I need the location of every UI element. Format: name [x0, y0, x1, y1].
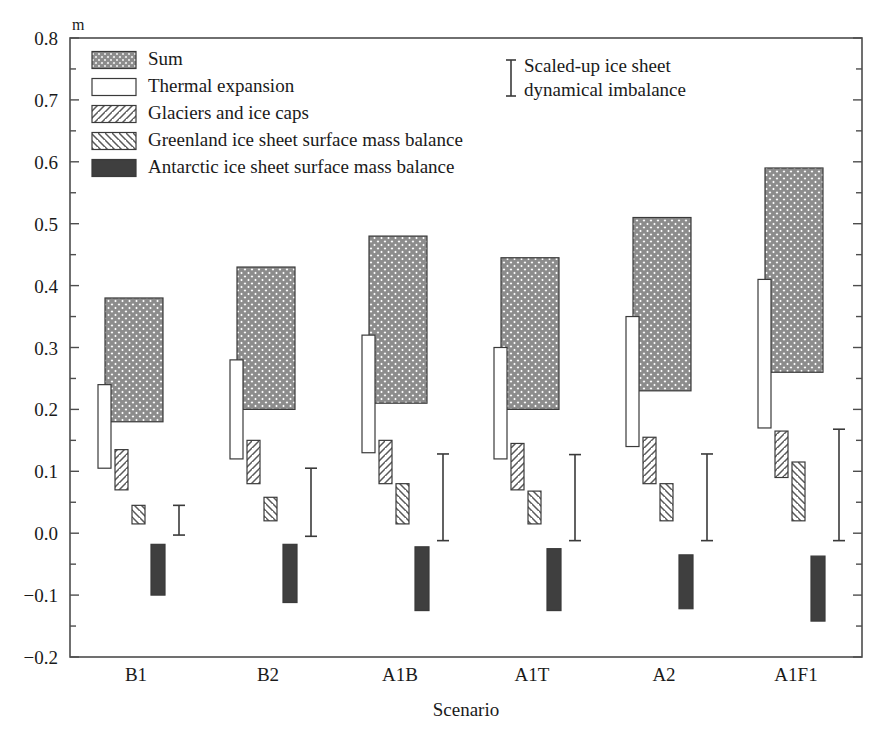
bar-A1F1-diag-back	[792, 462, 805, 521]
bar-B1-empty	[98, 385, 111, 469]
error-bars-group	[173, 429, 845, 540]
bar-A1T-empty	[494, 348, 507, 459]
y-tick-label: 0.7	[34, 90, 58, 111]
legend-label: Sum	[148, 48, 183, 69]
bar-B1-crosshatch	[105, 298, 163, 422]
bar-A1T-diag-back	[528, 491, 541, 524]
y-tick-label: 0.1	[34, 461, 58, 482]
bar-A2-solid	[679, 555, 693, 609]
y-tick-label: −0.2	[24, 647, 58, 668]
y-tick-label: 0.3	[34, 338, 58, 359]
legend-swatch-solid	[92, 160, 136, 177]
bar-B1-diag-forward	[115, 450, 128, 490]
legend-label: Thermal expansion	[148, 75, 295, 96]
y-tick-label: 0.4	[34, 276, 58, 297]
x-tick-label-A1B: A1B	[382, 664, 418, 685]
x-tick-label-A1T: A1T	[515, 664, 550, 685]
bar-A2-diag-back	[660, 484, 673, 521]
error-bar-B1	[173, 505, 185, 535]
annotation-scaled-up-imbalance: Scaled-up ice sheetdynamical imbalance	[506, 55, 686, 100]
y-tick-label: −0.1	[24, 585, 58, 606]
x-tick-label-B2: B2	[257, 664, 279, 685]
annotation-line-2: dynamical imbalance	[524, 79, 686, 100]
error-bar-B2	[305, 468, 317, 536]
bar-A1B-diag-forward	[379, 440, 392, 483]
legend-swatch-diag-forward	[92, 106, 136, 123]
x-tick-label-B1: B1	[125, 664, 147, 685]
y-tick-label: 0.0	[34, 523, 58, 544]
bar-B1-diag-back	[132, 505, 145, 524]
legend-label: Greenland ice sheet surface mass balance	[148, 129, 463, 150]
bar-A2-crosshatch	[633, 218, 691, 391]
x-axis-title: Scenario	[433, 699, 499, 720]
bar-A1T-solid	[547, 549, 561, 611]
annotation-line-1: Scaled-up ice sheet	[524, 55, 671, 76]
bar-A1F1-crosshatch	[765, 168, 823, 372]
chart-canvas: m 0.80.70.60.50.40.30.20.10.0−0.1−0.2 B1…	[0, 0, 881, 733]
bar-A1F1-solid	[811, 556, 825, 621]
bar-A1F1-diag-forward	[775, 431, 788, 477]
error-bar-A2	[701, 454, 713, 541]
x-tick-label-A1F1: A1F1	[774, 664, 817, 685]
error-bar-A1B	[437, 454, 449, 541]
y-tick-label: 0.5	[34, 214, 58, 235]
bar-B2-solid	[283, 544, 297, 602]
bar-B1-solid	[151, 544, 165, 595]
legend-swatch-empty	[92, 79, 136, 96]
legend-swatch-crosshatch	[92, 52, 136, 69]
bar-A1B-diag-back	[396, 484, 409, 524]
error-bar-A1F1	[833, 429, 845, 540]
x-tick-label-A2: A2	[652, 664, 675, 685]
bar-A1T-crosshatch	[501, 258, 559, 410]
bars-group	[98, 168, 825, 621]
bar-B2-diag-back	[264, 497, 277, 521]
bar-A2-empty	[626, 317, 639, 447]
legend: SumThermal expansionGlaciers and ice cap…	[92, 48, 463, 177]
error-bar-A1T	[569, 455, 581, 541]
legend-label: Antarctic ice sheet surface mass balance	[148, 156, 454, 177]
y-tick-label: 0.6	[34, 152, 58, 173]
bar-B2-empty	[230, 360, 243, 459]
y-axis-unit-label: m	[72, 16, 85, 33]
bar-A2-diag-forward	[643, 437, 656, 483]
y-tick-label: 0.2	[34, 399, 58, 420]
legend-swatch-diag-back	[92, 133, 136, 150]
legend-label: Glaciers and ice caps	[148, 102, 309, 123]
bar-B2-crosshatch	[237, 267, 295, 409]
bar-B2-diag-forward	[247, 440, 260, 483]
sea-level-rise-chart: m 0.80.70.60.50.40.30.20.10.0−0.1−0.2 B1…	[0, 0, 881, 733]
x-axis-category-labels: B1B2A1BA1TA2A1F1	[125, 664, 818, 685]
bar-A1T-diag-forward	[511, 443, 524, 489]
bar-A1B-crosshatch	[369, 236, 427, 403]
bar-A1B-solid	[415, 547, 429, 611]
y-tick-label: 0.8	[34, 28, 58, 49]
bar-A1F1-empty	[758, 279, 771, 428]
bar-A1B-empty	[362, 335, 375, 453]
